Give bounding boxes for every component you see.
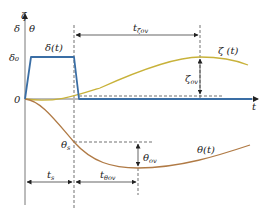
- y-label-zeta: ζ: [21, 10, 27, 21]
- t-s-label: ts: [47, 169, 55, 182]
- t-zeta-ov-label: tζov: [133, 22, 148, 35]
- theta-curve: [25, 99, 250, 168]
- y-label-delta: δ: [14, 23, 20, 34]
- delta-curve: [25, 57, 252, 99]
- t-axis-label: t: [252, 101, 257, 112]
- zeta-curve: [25, 57, 248, 100]
- delta0-label: δ₀: [9, 52, 19, 63]
- zeta-curve-label: ζ (t): [218, 45, 239, 56]
- zeta-ov-label: ζov: [185, 73, 198, 86]
- delta-curve-label: δ(t): [45, 42, 63, 53]
- t-theta-ov-label: tθov: [100, 169, 116, 182]
- y-label-theta: θ: [29, 23, 35, 34]
- theta-s-label: θs: [61, 139, 71, 152]
- theta-ov-label: θov: [143, 152, 157, 165]
- response-diagram: ζ δ θ δ₀ 0 t δ(t) ζ (t) θ(t) tζov ζov θs…: [0, 0, 270, 216]
- zero-label: 0: [14, 94, 21, 105]
- theta-curve-label: θ(t): [197, 144, 215, 155]
